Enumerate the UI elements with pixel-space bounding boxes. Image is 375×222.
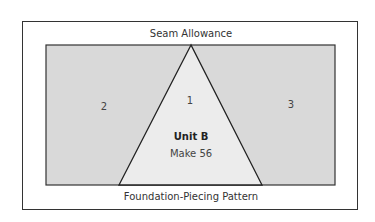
unit-quantity: Make 56 — [170, 148, 212, 159]
seam-allowance-label: Seam Allowance — [150, 28, 232, 39]
pattern-caption: Foundation-Piecing Pattern — [124, 191, 258, 202]
unit-title: Unit B — [174, 131, 209, 142]
piece-number-3: 3 — [288, 99, 294, 110]
foundation-piecing-diagram: Seam Allowance Foundation-Piecing Patter… — [0, 0, 375, 222]
piece-number-1: 1 — [187, 95, 193, 106]
piece-number-2: 2 — [101, 101, 107, 112]
